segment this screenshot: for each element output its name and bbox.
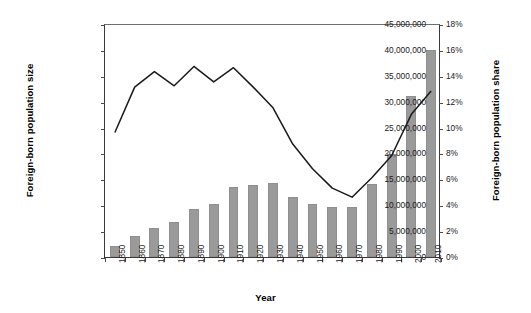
x-tick-label: 1890 (197, 245, 205, 263)
y-tick-left (101, 51, 105, 52)
x-tick-label: 2000 (414, 245, 422, 263)
y-tick-label-right: 10% (446, 124, 486, 132)
y-tick-left (101, 180, 105, 181)
x-tick-label: 1850 (118, 245, 126, 263)
x-tick-label: 1860 (138, 245, 146, 263)
y-tick-label-left: 20,000,000 (336, 149, 426, 157)
y-tick-label-right: 8% (446, 149, 486, 157)
y-tick-left (101, 206, 105, 207)
y-tick-right (439, 232, 443, 233)
y-tick-label-right: 12% (446, 98, 486, 106)
y-tick-right (439, 129, 443, 130)
x-axis-title: Year (0, 292, 531, 303)
x-tick-label: 1880 (177, 245, 185, 263)
y-tick-left (101, 232, 105, 233)
y-tick-label-right: 18% (446, 20, 486, 28)
x-tick-label: 1870 (157, 245, 165, 263)
x-tick-label: 1960 (335, 245, 343, 263)
x-tick-label: 1920 (256, 245, 264, 263)
y-axis-right-title: Foreign-born population share (490, 51, 501, 211)
plot-area (104, 24, 440, 257)
y-tick-label-right: 4% (446, 201, 486, 209)
x-tick-label: 1950 (316, 245, 324, 263)
y-tick-left (101, 77, 105, 78)
y-tick-left (101, 154, 105, 155)
y-tick-label-left: 40,000,000 (336, 46, 426, 54)
y-tick-left (101, 103, 105, 104)
y-tick-right (439, 51, 443, 52)
y-tick-right (439, 103, 443, 104)
y-tick-label-left: 5,000,000 (336, 227, 426, 235)
y-tick-right (439, 180, 443, 181)
x-tick-label: 1910 (236, 245, 244, 263)
y-tick-label-right: 14% (446, 72, 486, 80)
y-tick-label-left: 15,000,000 (336, 175, 426, 183)
bar (426, 50, 436, 257)
x-tick-label: 1900 (217, 245, 225, 263)
y-tick-label-left: 25,000,000 (336, 124, 426, 132)
y-tick-label-right: 16% (446, 46, 486, 54)
y-tick-label-left: 35,000,000 (336, 72, 426, 80)
x-tick-label: 1970 (355, 245, 363, 263)
x-tick-label: 1930 (276, 245, 284, 263)
y-tick-label-right: 0% (446, 253, 486, 261)
x-tick-label: 1990 (395, 245, 403, 263)
y-tick-left (101, 129, 105, 130)
y-tick-label-left: 30,000,000 (336, 98, 426, 106)
x-tick (105, 258, 106, 262)
y-tick-right (439, 25, 443, 26)
y-tick-label-right: 2% (446, 227, 486, 235)
chart-container: Foreign-born population size Foreign-bor… (0, 0, 531, 313)
y-tick-label-left: 10,000,000 (336, 201, 426, 209)
y-tick-label-right: 6% (446, 175, 486, 183)
y-axis-left-title: Foreign-born population size (24, 51, 35, 211)
y-tick-right (439, 206, 443, 207)
y-tick-label-left: 45,000,000 (336, 20, 426, 28)
y-tick-right (439, 77, 443, 78)
x-tick-label: 1980 (375, 245, 383, 263)
y-tick-right (439, 154, 443, 155)
y-tick-left (101, 25, 105, 26)
x-tick-label: 1940 (296, 245, 304, 263)
x-tick-label: 2010 (434, 245, 442, 263)
